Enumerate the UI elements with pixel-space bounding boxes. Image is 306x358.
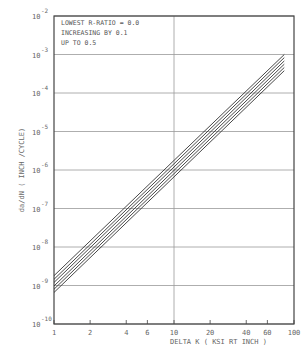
y-tick-exponent: -7 xyxy=(41,200,49,207)
y-tick-label: 10 xyxy=(32,90,40,98)
x-tick-label: 2 xyxy=(88,329,92,337)
annotation-line-2: INCREASING BY 0.1 xyxy=(61,29,128,37)
y-tick-exponent: -5 xyxy=(41,123,49,130)
y-tick-exponent: -4 xyxy=(41,84,49,91)
series-line xyxy=(54,67,284,289)
x-tick-label: 4 xyxy=(124,329,128,337)
y-tick-exponent: -10 xyxy=(41,315,52,322)
y-tick-label: 10 xyxy=(32,244,40,252)
annotation-line-1: LOWEST R-RATIO = 0.0 xyxy=(61,19,139,27)
y-tick-label: 10 xyxy=(32,206,40,214)
x-tick-label: 100 xyxy=(288,329,301,337)
y-tick-exponent: -9 xyxy=(41,277,49,284)
y-tick-label: 10 xyxy=(32,13,40,21)
x-tick-label: 20 xyxy=(206,329,214,337)
x-axis-ticks: 124610204060100 xyxy=(52,320,300,337)
data-series xyxy=(54,55,284,293)
series-line xyxy=(54,55,284,276)
x-axis-label: DELTA K ( KSI RT INCH ) xyxy=(170,338,267,346)
y-axis-label: da/dN ( INCH /CYCLE) xyxy=(18,128,26,212)
series-line xyxy=(54,71,284,293)
annotation-line-3: UP TO 0.5 xyxy=(61,39,96,47)
x-tick-label: 10 xyxy=(170,329,178,337)
y-tick-label: 10 xyxy=(32,52,40,60)
y-axis-ticks: 10-1010-910-810-710-610-510-410-310-2 xyxy=(32,7,52,329)
x-tick-label: 1 xyxy=(52,329,56,337)
y-tick-label: 10 xyxy=(32,167,40,175)
x-tick-label: 40 xyxy=(242,329,250,337)
y-tick-label: 10 xyxy=(32,283,40,291)
x-tick-label: 60 xyxy=(263,329,271,337)
x-tick-label: 6 xyxy=(145,329,149,337)
y-tick-exponent: -8 xyxy=(41,238,49,245)
series-line xyxy=(54,64,284,286)
y-tick-exponent: -2 xyxy=(41,7,49,14)
y-tick-exponent: -6 xyxy=(41,161,49,168)
y-tick-label: 10 xyxy=(32,129,40,137)
series-line xyxy=(54,58,284,280)
y-tick-exponent: -3 xyxy=(41,46,49,53)
series-line xyxy=(54,61,284,283)
y-tick-label: 10 xyxy=(32,321,40,329)
crack-growth-chart: 10-1010-910-810-710-610-510-410-310-2 12… xyxy=(0,0,306,358)
